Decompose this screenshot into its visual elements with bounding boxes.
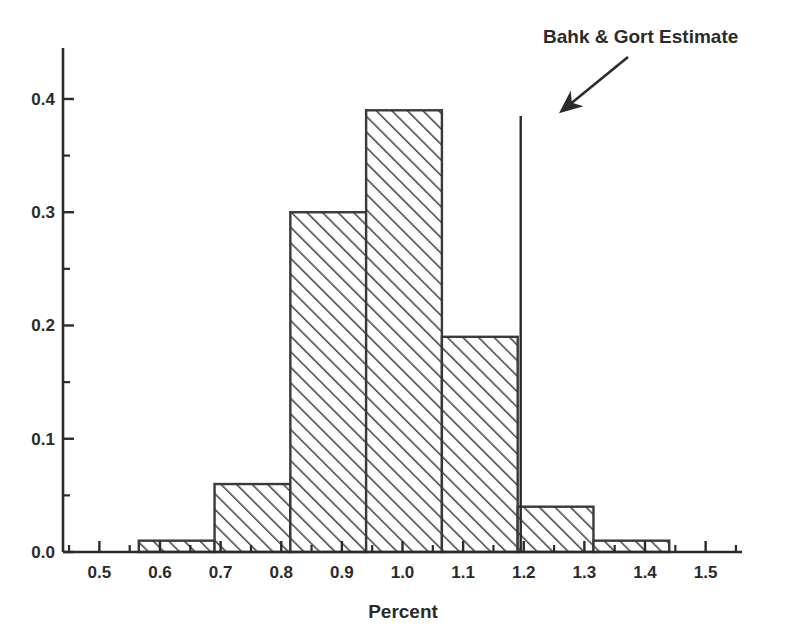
x-axis-tick-label: 0.8 [269, 563, 293, 582]
histogram-bar [366, 110, 442, 552]
y-axis-tick-label: 0.3 [31, 203, 55, 222]
x-axis-tick-label: 0.6 [148, 563, 172, 582]
histogram-figure: 0.00.10.20.30.4 0.50.60.70.80.91.01.11.2… [0, 0, 812, 634]
x-axis-tick-label: 0.7 [209, 563, 233, 582]
histogram-bar [518, 507, 594, 552]
y-axis-tick-label: 0.4 [31, 90, 55, 109]
y-axis-tick-label: 0.2 [31, 316, 55, 335]
histogram-bar [215, 484, 291, 552]
x-axis-tick-label: 0.9 [330, 563, 354, 582]
x-axis-title: Percent [368, 601, 438, 622]
x-axis-tick-label: 1.3 [573, 563, 597, 582]
bahk-gort-estimate-label: Bahk & Gort Estimate [543, 26, 738, 47]
x-axis-tick-label: 1.4 [633, 563, 657, 582]
histogram-bar [290, 212, 366, 552]
x-axis-tick-label: 0.5 [88, 563, 112, 582]
x-axis-tick-label: 1.0 [391, 563, 415, 582]
histogram-bar [593, 541, 669, 552]
x-axis-tick-label: 1.2 [512, 563, 536, 582]
histogram-bar [139, 541, 215, 552]
y-axis-tick-label: 0.0 [31, 543, 55, 562]
x-axis-tick-label: 1.5 [694, 563, 718, 582]
chart-canvas: 0.00.10.20.30.4 0.50.60.70.80.91.01.11.2… [0, 0, 812, 634]
histogram-bar [442, 337, 518, 552]
y-axis-tick-label: 0.1 [31, 430, 55, 449]
x-axis-tick-label: 1.1 [451, 563, 475, 582]
